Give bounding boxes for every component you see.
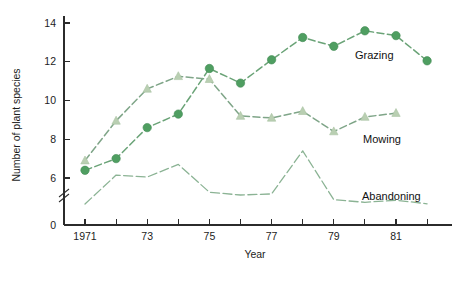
data-point-grazing-1971 <box>81 166 89 174</box>
x-tick-label-1981: 81 <box>390 230 402 242</box>
plant-species-line-chart: 06810121419717375777981YearNumber of pla… <box>0 0 459 282</box>
data-point-mowing-1974 <box>174 72 182 80</box>
data-point-mowing-1980 <box>361 112 369 120</box>
y-tick-label-0: 0 <box>50 219 56 231</box>
data-point-mowing-1978 <box>299 107 307 115</box>
data-point-grazing-1976 <box>236 79 244 87</box>
series-label-abandoning: Abandoning <box>362 190 421 202</box>
x-axis-title: Year <box>244 248 266 260</box>
y-axis-title: Number of plant species <box>10 68 22 181</box>
data-point-grazing-1975 <box>205 64 213 72</box>
series-label-mowing: Mowing <box>363 133 401 145</box>
x-tick-label-1977: 77 <box>266 230 278 242</box>
x-tick-label-1971: 1971 <box>73 230 97 242</box>
data-point-grazing-1979 <box>330 42 338 50</box>
x-tick-label-1975: 75 <box>204 230 216 242</box>
data-point-grazing-1981 <box>392 31 400 39</box>
data-point-grazing-1982 <box>423 57 431 65</box>
data-point-grazing-1973 <box>143 123 151 131</box>
data-point-grazing-1977 <box>267 56 275 64</box>
y-tick-group: 068101214 <box>44 17 70 231</box>
data-point-mowing-1981 <box>392 109 400 117</box>
x-tick-group: 19717375777981 <box>73 219 427 242</box>
y-tick-label-12: 12 <box>44 55 56 67</box>
series-label-grazing: Grazing <box>355 49 394 61</box>
data-point-grazing-1974 <box>174 110 182 118</box>
x-tick-label-1973: 73 <box>141 230 153 242</box>
data-point-grazing-1978 <box>299 33 307 41</box>
y-tick-label-6: 6 <box>50 172 56 184</box>
data-point-grazing-1980 <box>361 27 369 35</box>
y-tick-label-10: 10 <box>44 94 56 106</box>
y-tick-label-8: 8 <box>50 133 56 145</box>
x-tick-label-1979: 79 <box>328 230 340 242</box>
y-tick-label-14: 14 <box>44 17 56 29</box>
data-point-grazing-1972 <box>112 154 120 162</box>
chart-canvas: 06810121419717375777981YearNumber of pla… <box>0 0 459 282</box>
